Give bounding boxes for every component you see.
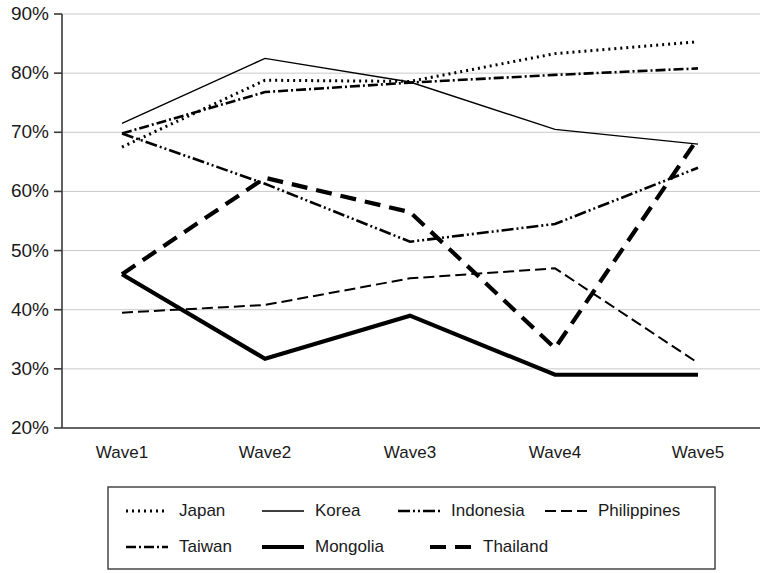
chart-canvas: 20%30%40%50%60%70%80%90% Wave1Wave2Wave3… bbox=[0, 0, 767, 573]
gridlines bbox=[62, 14, 760, 428]
y-tick-label: 90% bbox=[11, 3, 49, 24]
y-tick-label: 60% bbox=[11, 180, 49, 201]
x-tick-label: Wave3 bbox=[384, 443, 436, 462]
series-line-taiwan bbox=[122, 68, 698, 133]
legend-label-mongolia: Mongolia bbox=[315, 537, 385, 556]
legend-label-philippines: Philippines bbox=[598, 501, 680, 520]
x-tick-label: Wave1 bbox=[96, 443, 148, 462]
series-line-korea bbox=[122, 58, 698, 144]
line-chart: 20%30%40%50%60%70%80%90% Wave1Wave2Wave3… bbox=[0, 0, 767, 573]
axes bbox=[62, 14, 760, 428]
series-line-japan bbox=[122, 42, 698, 147]
series-lines bbox=[122, 42, 698, 375]
y-tick-label: 50% bbox=[11, 240, 49, 261]
x-tick-label: Wave2 bbox=[239, 443, 291, 462]
legend-label-indonesia: Indonesia bbox=[451, 501, 525, 520]
y-axis-tick-labels: 20%30%40%50%60%70%80%90% bbox=[11, 3, 49, 438]
y-tick-label: 70% bbox=[11, 121, 49, 142]
legend-label-thailand: Thailand bbox=[483, 537, 548, 556]
series-line-mongolia bbox=[122, 274, 698, 375]
y-tick-label: 80% bbox=[11, 62, 49, 83]
x-tick-label: Wave4 bbox=[529, 443, 581, 462]
legend-label-korea: Korea bbox=[315, 501, 361, 520]
x-tick-label: Wave5 bbox=[672, 443, 724, 462]
y-tick-label: 20% bbox=[11, 417, 49, 438]
legend-label-taiwan: Taiwan bbox=[179, 537, 232, 556]
y-tick-label: 30% bbox=[11, 358, 49, 379]
legend-label-japan: Japan bbox=[179, 501, 225, 520]
y-tick-label: 40% bbox=[11, 299, 49, 320]
series-line-indonesia bbox=[122, 133, 698, 241]
legend-border bbox=[108, 487, 715, 569]
chart-legend: JapanKoreaIndonesiaPhilippinesTaiwanMong… bbox=[108, 487, 715, 569]
y-tick-marks bbox=[54, 14, 62, 428]
x-axis-tick-labels: Wave1Wave2Wave3Wave4Wave5 bbox=[96, 443, 724, 462]
